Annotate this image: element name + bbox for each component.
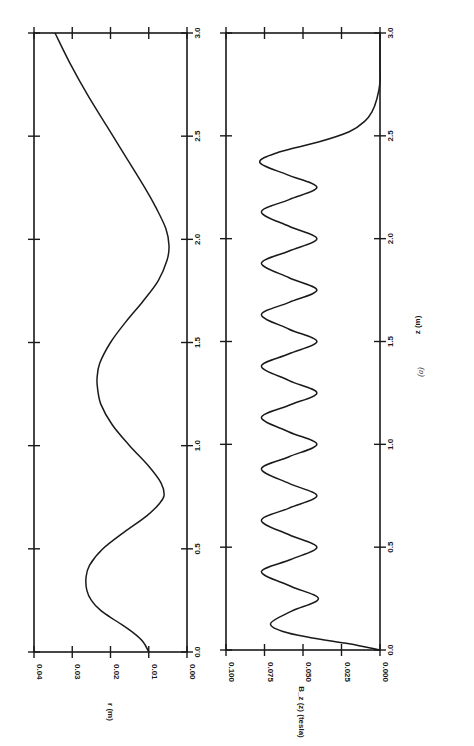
z-tick-label: 3.0 [193,27,202,39]
z-tick-label: 2.0 [386,233,395,245]
r-curve [55,33,169,652]
value-tick-label: 0.000 [381,662,390,683]
figure: 0.00.51.01.52.02.53.0 0.000.010.020.030.… [0,0,474,746]
z-tick-label: 1.5 [193,336,202,348]
z-ticks-r: 0.00.51.01.52.02.53.0 [28,27,202,658]
value-tick-label: 0.01 [150,664,159,680]
z-tick-label: 0.5 [386,541,395,553]
bz-ticks: 0.0000.0250.0500.0750.100 [226,27,390,683]
panel-r: 0.00.51.01.52.02.53.0 0.000.010.020.030.… [28,27,202,721]
figure-caption: (a) [416,367,425,377]
value-tick-label: 0.02 [112,664,121,680]
z-tick-label: 1.0 [386,438,395,450]
z-tick-label: 0.0 [386,644,395,656]
value-tick-label: 0.03 [73,664,82,680]
r-ticks: 0.000.010.020.030.04 [34,27,197,680]
z-tick-label: 3.0 [386,27,395,39]
plot-frame-bz [226,33,380,650]
value-tick-label: 0.00 [188,664,197,680]
z-tick-label: 0.0 [193,646,202,658]
z-tick-label: 2.5 [193,130,202,142]
bz-curve [260,33,380,650]
bz-axis-label: B_z (z) (tesla) [297,686,306,738]
z-tick-label: 1.0 [193,440,202,452]
z-ticks-bz: 0.00.51.01.52.02.53.0 [220,27,395,656]
z-tick-label: 0.5 [193,543,202,555]
z-tick-label: 2.5 [386,130,395,142]
z-tick-label: 1.5 [386,335,395,347]
z-axis-label: z (m) [413,315,422,334]
value-tick-label: 0.04 [35,664,44,680]
z-tick-label: 2.0 [193,233,202,245]
value-tick-label: 0.025 [343,662,352,683]
panel-bz: 0.00.51.01.52.02.53.0 0.0000.0250.0500.0… [220,27,395,738]
r-axis-label: r (m) [106,703,115,721]
value-tick-label: 0.050 [304,662,313,683]
value-tick-label: 0.100 [227,662,236,683]
value-tick-label: 0.075 [266,662,275,683]
